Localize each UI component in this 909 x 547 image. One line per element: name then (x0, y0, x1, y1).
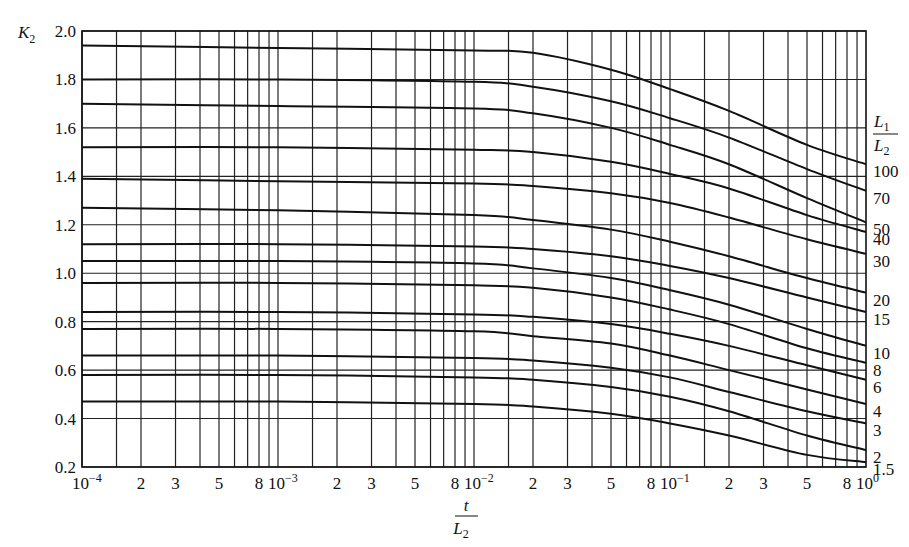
legend-title: L1 L2 (873, 112, 898, 158)
curve-label: 20 (873, 291, 890, 310)
curve-label: 6 (873, 378, 882, 397)
x-axis-title-denominator: L2 (452, 519, 468, 541)
x-tick-label: 10−1 (660, 471, 690, 493)
chart-canvas: 0.20.40.60.81.01.21.41.61.82.0 10−423581… (0, 0, 909, 547)
legend-num-main: L (873, 112, 883, 131)
x-tick-label: 8 (647, 474, 656, 493)
legend-title-numerator: L1 (873, 112, 889, 134)
legend-den-main: L (873, 136, 883, 155)
x-tick-label: 2 (137, 474, 146, 493)
y-tick-label: 1.8 (55, 70, 76, 89)
x-tick-label: 2 (333, 474, 342, 493)
curve-label: 70 (873, 189, 890, 208)
x-title-den-sub: 2 (463, 527, 469, 541)
x-title-den-main: L (452, 519, 462, 538)
y-axis-ticks: 0.20.40.60.81.01.21.41.61.82.0 (55, 22, 77, 477)
x-tick-label: 5 (411, 474, 420, 493)
y-tick-label: 0.8 (55, 313, 76, 332)
x-tick-label: 2 (529, 474, 538, 493)
x-tick-label: 8 (451, 474, 460, 493)
x-tick-label: 10−3 (268, 471, 298, 493)
legend-title-denominator: L2 (873, 136, 889, 158)
curve-label: 30 (873, 252, 890, 271)
curve-label: 3 (873, 421, 882, 440)
y-tick-label: 0.6 (55, 361, 76, 380)
y-tick-label: 1.6 (55, 119, 76, 138)
y-tick-label: 1.4 (55, 167, 77, 186)
curve-label: 40 (873, 230, 890, 249)
x-tick-label: 5 (215, 474, 224, 493)
y-axis-title: K2 (17, 23, 35, 46)
x-tick-label: 5 (607, 474, 616, 493)
y-axis-title-sub: 2 (29, 32, 35, 46)
y-tick-label: 2.0 (55, 22, 76, 41)
curve-label: 100 (873, 162, 899, 181)
x-axis-title-numerator: t (464, 496, 470, 515)
curve-label: 15 (873, 310, 890, 329)
y-tick-label: 1.2 (55, 216, 76, 235)
curve-label: 4 (873, 402, 882, 421)
x-tick-label: 8 (843, 474, 852, 493)
x-tick-label: 5 (803, 474, 812, 493)
x-tick-label: 2 (725, 474, 734, 493)
legend-den-sub: 2 (883, 144, 889, 158)
x-tick-label: 10−4 (72, 471, 102, 493)
x-tick-label: 8 (255, 474, 264, 493)
x-tick-label: 3 (367, 474, 376, 493)
x-axis-ticks: 10−4235810−3235810−2235810−12358100 (72, 471, 879, 493)
y-tick-label: 0.4 (55, 410, 77, 429)
curve-label: 1.5 (873, 460, 894, 479)
legend-num-sub: 1 (883, 120, 889, 134)
x-tick-label: 3 (563, 474, 572, 493)
x-tick-label: 3 (759, 474, 768, 493)
legend-curve-labels: 10070504030201510864321.5 (873, 162, 899, 479)
x-axis-title: t L2 (452, 496, 478, 541)
y-tick-label: 1.0 (55, 264, 76, 283)
x-tick-label: 10−2 (464, 471, 494, 493)
x-tick-label: 3 (171, 474, 180, 493)
